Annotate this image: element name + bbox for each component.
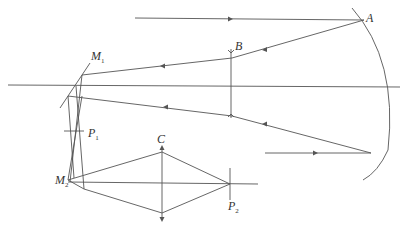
ray-C-bottom-to-P2 xyxy=(162,184,230,213)
arrow-C-bottom xyxy=(160,217,165,222)
ray-bottom-to-M1 xyxy=(68,96,371,153)
arrow-bottom-reflected xyxy=(262,122,267,127)
axis-M2-P2 xyxy=(68,182,258,184)
label-P1: P1 xyxy=(88,127,99,142)
label-B: B xyxy=(235,40,242,52)
optical-axis xyxy=(8,85,400,87)
incoming-ray-top xyxy=(135,18,364,20)
arrow-incoming-top xyxy=(228,17,233,22)
diagram-drawing xyxy=(0,0,402,236)
arrow-incoming-bottom xyxy=(313,151,318,156)
figure-caption xyxy=(150,226,250,234)
label-A: A xyxy=(366,12,373,24)
ray-M1-M2-b xyxy=(76,86,84,189)
label-M1: M1 xyxy=(91,50,105,65)
ray-M2-to-C-bottom xyxy=(84,189,162,213)
label-C: C xyxy=(157,133,165,145)
ray-A-to-M1 xyxy=(82,20,364,75)
ray-M1-M2-c xyxy=(68,96,74,178)
concave-mirror xyxy=(352,8,390,180)
label-P2: P2 xyxy=(228,200,239,215)
label-M2: M2 xyxy=(55,174,69,189)
arrow-B-to-M1 xyxy=(160,64,165,69)
ray-C-top-to-P2 xyxy=(162,152,230,184)
arrow-bottom-to-M1 xyxy=(163,105,168,110)
optics-diagram: A B C M1 M2 P1 P2 xyxy=(0,0,402,236)
mirror-M2 xyxy=(68,180,84,189)
